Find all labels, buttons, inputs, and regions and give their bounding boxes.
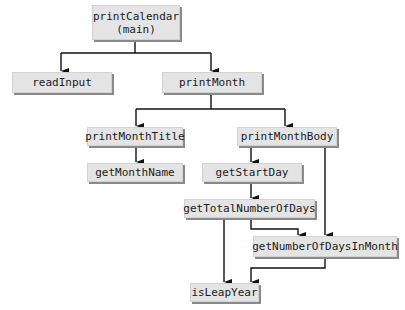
node-getTotalNumberOfDays: getTotalNumberOfDays — [184, 199, 315, 218]
node-printMonthTitle: printMonthTitle — [87, 127, 183, 146]
node-getStartDay: getStartDay — [202, 163, 302, 182]
node-readInput: readInput — [12, 72, 112, 93]
node-printMonth: printMonth — [162, 72, 262, 93]
node-getMonthName: getMonthName — [87, 163, 183, 182]
node-getNumberOfDaysInMonth: getNumberOfDaysInMonth — [253, 236, 397, 257]
node-isLeapYear: isLeapYear — [190, 283, 259, 302]
node-printMonthBody: printMonthBody — [237, 127, 337, 146]
connector-lines — [0, 0, 405, 310]
node-printCalendar: printCalendar (main) — [92, 5, 180, 40]
